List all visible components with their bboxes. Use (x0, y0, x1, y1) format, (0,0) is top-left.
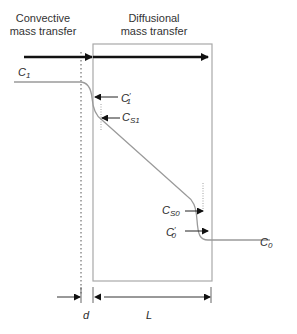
mass-transfer-diagram: Convective mass transfer Diffusional mas… (0, 0, 297, 334)
convective-header: Convective mass transfer (8, 12, 78, 38)
concentration-profile (14, 82, 270, 240)
diagram-graphics (0, 0, 297, 334)
cs1-label: CS1 (122, 111, 140, 127)
l-label: L (146, 309, 152, 322)
c1-label: C1 (18, 66, 30, 82)
membrane-box (93, 44, 212, 281)
c0-label: C0 (260, 236, 272, 252)
l-arrow-left-head (94, 294, 101, 301)
diffusional-header: Diffusional mass transfer (112, 12, 196, 38)
cs0-label: CS0 (162, 204, 180, 220)
d-label: d (83, 309, 89, 322)
c1-prime-label: C′1 (121, 89, 131, 108)
c0-prime-label: C′0 (166, 223, 176, 242)
